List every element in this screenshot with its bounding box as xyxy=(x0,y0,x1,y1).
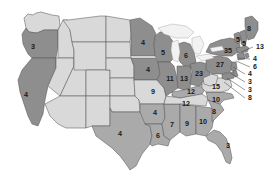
state-colorado[interactable] xyxy=(86,70,110,96)
leader-line-callout-connecticut xyxy=(236,61,250,67)
ev-label-kentucky: 12 xyxy=(187,87,195,96)
state-wyoming[interactable] xyxy=(72,42,106,70)
ev-label-georgia: 10 xyxy=(199,117,207,126)
ev-label-louisiana: 6 xyxy=(156,131,160,140)
ev-label-texas: 4 xyxy=(118,129,122,138)
state-shapes-layer xyxy=(18,12,258,170)
state-oregon[interactable] xyxy=(22,28,58,58)
ev-label-callout-delaware: 3 xyxy=(248,78,252,85)
state-south-dakota[interactable] xyxy=(106,42,131,58)
ev-label-new-hampshire: 5 xyxy=(242,39,246,48)
state-oklahoma[interactable] xyxy=(110,96,140,112)
ev-label-minnesota: 4 xyxy=(141,38,145,47)
ev-label-tennessee: 12 xyxy=(182,99,190,108)
ev-label-illinois: 11 xyxy=(166,74,174,83)
state-nebraska[interactable] xyxy=(106,58,134,78)
state-rhode-island[interactable] xyxy=(245,53,249,58)
ev-label-new-york: 35 xyxy=(224,46,232,55)
ev-label-missouri: 9 xyxy=(151,87,155,96)
ev-label-michigan: 6 xyxy=(184,51,188,60)
ev-label-south-carolina: 8 xyxy=(212,107,216,116)
ev-label-callout-dc-virginia: 8 xyxy=(248,94,252,101)
ev-label-mississippi: 7 xyxy=(170,120,174,129)
ev-label-california: 4 xyxy=(24,90,28,99)
ev-label-maine: 8 xyxy=(247,24,251,33)
us-electoral-map: 3444494651171369121223101510832735558 13… xyxy=(0,0,276,181)
ev-label-north-carolina: 10 xyxy=(212,95,220,104)
state-north-dakota[interactable] xyxy=(106,16,131,42)
ev-label-callout-rhode-island: 4 xyxy=(253,55,257,62)
ev-label-pennsylvania: 27 xyxy=(216,60,224,69)
ev-label-callout-connecticut: 6 xyxy=(253,63,257,70)
ev-label-indiana: 13 xyxy=(180,74,188,83)
ev-label-oregon: 3 xyxy=(31,42,35,51)
ev-label-vermont-nh: 5 xyxy=(236,35,240,44)
ev-label-arkansas: 4 xyxy=(153,108,157,117)
ev-label-alabama: 9 xyxy=(185,119,189,128)
ev-label-wisconsin: 5 xyxy=(161,48,165,57)
ev-label-callout-massachusetts: 13 xyxy=(256,43,264,50)
ev-label-iowa: 4 xyxy=(146,65,150,74)
state-new-mexico[interactable] xyxy=(86,96,110,128)
lake-huron xyxy=(192,36,204,54)
ev-label-florida: 3 xyxy=(226,141,230,150)
ev-label-virginia: 15 xyxy=(212,82,220,91)
ev-label-ohio: 23 xyxy=(195,69,203,78)
ev-label-callout-maryland: 3 xyxy=(248,86,252,93)
electoral-map-container: 3444494651171369121223101510832735558 13… xyxy=(0,0,276,181)
state-arizona[interactable] xyxy=(45,96,86,128)
state-connecticut[interactable] xyxy=(237,53,245,60)
state-kansas[interactable] xyxy=(110,78,135,96)
ev-label-callout-new-jersey: 4 xyxy=(248,70,252,77)
